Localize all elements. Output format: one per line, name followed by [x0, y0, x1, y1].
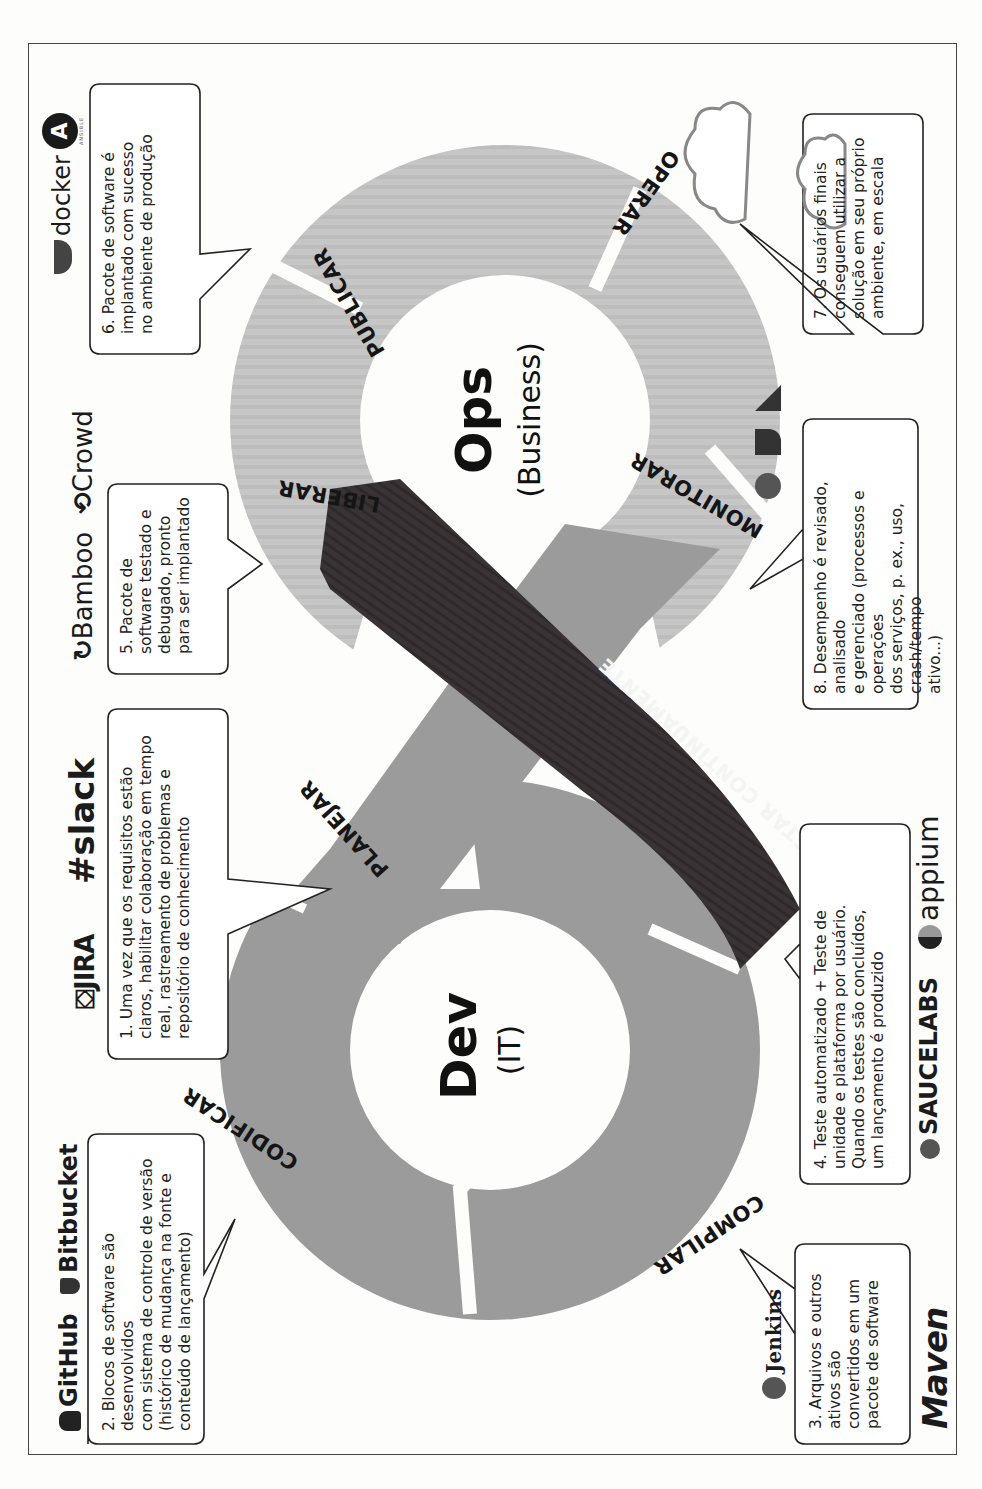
- callout-7: 7. Os usuários finaisconseguem utilizar …: [812, 119, 888, 319]
- appium-logo: appium: [912, 815, 945, 949]
- callout-8: 8. Desempenho é revisado, analisadoe ger…: [812, 424, 945, 694]
- octocat-icon: [59, 1411, 81, 1431]
- callout-1: 1. Uma vez que os requisitos estãoclaros…: [118, 719, 194, 1039]
- elk-stack-logo: [755, 385, 785, 499]
- dev-subtitle: (IT): [492, 1000, 527, 1100]
- bamboo-icon: ↻: [68, 639, 98, 661]
- callout-3: 3. Arquivos e outrosativos sãoconvertido…: [807, 1249, 883, 1429]
- bamboo-logo: ↻Bamboo: [68, 532, 98, 661]
- saucelabs-icon: [920, 1139, 940, 1159]
- ops-title: Ops: [445, 350, 503, 490]
- callout-5: 5. Pacote desoftware testado edebugado, …: [118, 489, 194, 654]
- slack-logo: #slack: [62, 758, 102, 884]
- jira-logo: ⛋JIRA: [70, 935, 101, 1010]
- ops-subtitle: (Business): [512, 320, 547, 520]
- diagram-stage: PLANEJAR CODIFICAR COMPILAR TESTAR CONTI…: [0, 0, 982, 1489]
- maven-logo: Maven: [915, 1308, 955, 1429]
- bitbucket-icon: [60, 1278, 80, 1294]
- ansible-logo: A ANSIBLE: [42, 113, 84, 149]
- elasticsearch-icon: [755, 473, 781, 499]
- callout-6: 6. Pacote de software éimplantado com su…: [100, 94, 157, 334]
- docker-logo: docker: [48, 155, 76, 274]
- crowd-icon: ⟲: [68, 492, 98, 514]
- bitbucket-logo: Bitbucket: [55, 1143, 83, 1294]
- docker-whale-icon: [54, 240, 72, 274]
- callout-2: 2. Blocos de software são desenvolvidosc…: [100, 1141, 195, 1431]
- logstash-icon: [755, 429, 781, 455]
- callout-4: 4. Teste automatizado + Teste deunidade …: [812, 829, 888, 1169]
- saucelabs-logo: SAUCELABS: [915, 977, 943, 1159]
- ansible-icon: A: [42, 113, 78, 149]
- dev-title: Dev: [430, 1000, 488, 1100]
- jenkins-butler-icon: [762, 1377, 786, 1399]
- kibana-icon: [755, 385, 781, 411]
- slack-hash-icon: #: [62, 856, 102, 885]
- jira-icon: ⛋: [70, 990, 100, 1009]
- jenkins-logo: Jenkins: [762, 1289, 786, 1399]
- appium-icon: [918, 925, 942, 949]
- crowd-logo: ⟲Crowd: [68, 410, 98, 514]
- github-logo: GitHub: [55, 1313, 83, 1431]
